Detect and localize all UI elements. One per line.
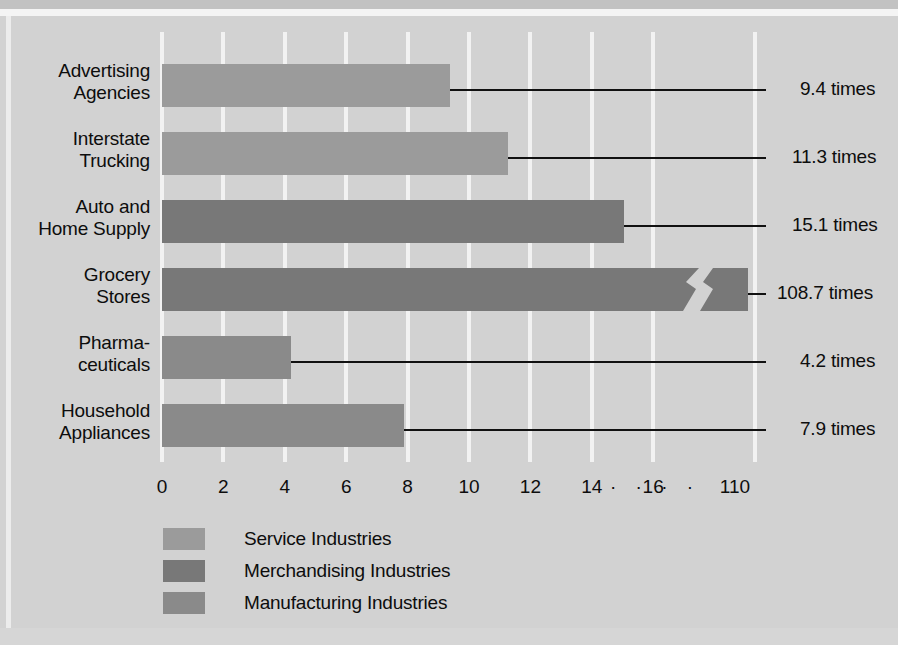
leader-line-interstate-trucking <box>508 157 766 159</box>
category-label-line1: Advertising <box>10 60 150 82</box>
gridline-12 <box>528 32 532 462</box>
bar-pharmaceuticals <box>162 336 291 379</box>
leader-line-pharmaceuticals <box>291 361 766 363</box>
legend-swatch-manufacturing-industries <box>163 592 205 614</box>
legend-label-manufacturing-industries: Manufacturing Industries <box>244 592 447 614</box>
legend: Service Industries Merchandising Industr… <box>163 523 450 619</box>
category-label-advertising-agencies: Advertising Agencies <box>10 60 150 104</box>
leader-line-household-appliances <box>404 429 766 431</box>
leader-line-auto-and-home-supply <box>624 225 766 227</box>
category-label-interstate-trucking: Interstate Trucking <box>10 128 150 172</box>
value-label-auto-and-home-supply: 15.1 times <box>792 214 878 236</box>
gridline-10 <box>467 32 471 462</box>
x-axis-tick-8: 8 <box>383 476 433 498</box>
category-label-line2: Agencies <box>10 82 150 104</box>
bar-household-appliances <box>162 404 404 447</box>
category-label-line1: Pharma- <box>10 332 150 354</box>
legend-item-manufacturing-industries: Manufacturing Industries <box>163 587 450 619</box>
value-label-interstate-trucking: 11.3 times <box>792 146 876 168</box>
legend-item-merchandising-industries: Merchandising Industries <box>163 555 450 587</box>
category-label-line2: Trucking <box>10 150 150 172</box>
x-axis-tick-12: 12 <box>505 476 555 498</box>
legend-swatch-service-industries <box>163 528 205 550</box>
x-axis-tick-6: 6 <box>321 476 371 498</box>
category-label-line2: Appliances <box>5 422 150 444</box>
x-axis-tick-4: 4 <box>260 476 310 498</box>
x-axis-tick-10: 10 <box>444 476 494 498</box>
bar-auto-and-home-supply <box>162 200 624 243</box>
gridline-16 <box>651 32 655 462</box>
top-white-rule <box>0 9 898 16</box>
value-label-pharmaceuticals: 4.2 times <box>800 350 875 372</box>
value-label-household-appliances: 7.9 times <box>800 418 875 440</box>
category-label-grocery-stores: Grocery Stores <box>10 264 150 308</box>
value-label-advertising-agencies: 9.4 times <box>800 78 875 100</box>
category-label-line1: Grocery <box>10 264 150 286</box>
category-label-line1: Interstate <box>10 128 150 150</box>
category-label-line2: Stores <box>10 286 150 308</box>
x-axis-far-tick-110: 110 <box>705 476 765 498</box>
bar-advertising-agencies <box>162 64 450 107</box>
legend-label-service-industries: Service Industries <box>244 528 391 550</box>
top-band <box>0 0 898 9</box>
bar-interstate-trucking <box>162 132 508 175</box>
x-axis-tick-2: 2 <box>198 476 248 498</box>
bar-grocery-stores <box>162 268 748 311</box>
leader-line-grocery-stores <box>748 293 766 295</box>
category-label-line2: Home Supply <box>0 218 150 240</box>
category-label-line2: ceuticals <box>10 354 150 376</box>
category-label-line1: Household <box>5 400 150 422</box>
category-label-line1: Auto and <box>0 196 150 218</box>
leader-line-advertising-agencies <box>450 89 766 91</box>
x-axis-tick-0: 0 <box>137 476 187 498</box>
category-label-pharmaceuticals: Pharma- ceuticals <box>10 332 150 376</box>
category-label-auto-and-home-supply: Auto and Home Supply <box>0 196 150 240</box>
chart-figure: Advertising Agencies Interstate Trucking… <box>0 0 898 645</box>
gridline-14 <box>590 32 594 462</box>
plot-background <box>11 16 898 645</box>
legend-item-service-industries: Service Industries <box>163 523 450 555</box>
gridline-110 <box>753 32 757 462</box>
value-label-grocery-stores: 108.7 times <box>777 282 873 304</box>
legend-swatch-merchandising-industries <box>163 560 205 582</box>
axis-break-dots: · · · · <box>610 476 700 498</box>
legend-label-merchandising-industries: Merchandising Industries <box>244 560 450 582</box>
left-white-rule <box>6 16 11 645</box>
bottom-band <box>0 628 898 645</box>
category-label-household-appliances: Household Appliances <box>5 400 150 444</box>
broken-bar-shape <box>162 268 748 311</box>
